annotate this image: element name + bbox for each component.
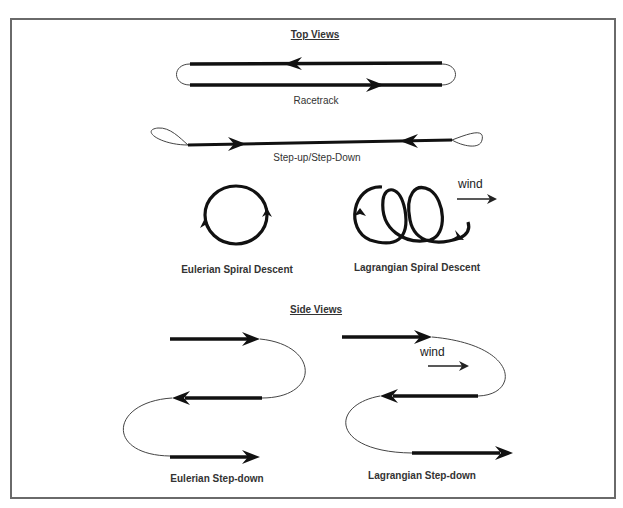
flight-pattern-diagram: [0, 0, 623, 508]
eulerian-stepdown-label: Eulerian Step-down: [170, 473, 263, 484]
side-views-heading: Side Views: [290, 304, 342, 315]
eulerian-stepdown-pattern: [123, 332, 305, 464]
lagrangian-stepdown-label: Lagrangian Step-down: [368, 470, 476, 481]
wind-label-side: wind: [420, 345, 445, 359]
wind-arrow-side: [428, 361, 469, 371]
arrow-up-icon: [200, 218, 210, 228]
wind-arrow-top: [457, 194, 497, 204]
racetrack-pattern: [177, 57, 456, 92]
step-up-step-down-pattern: [151, 128, 482, 151]
lagrangian-spiral-label: Lagrangian Spiral Descent: [354, 262, 480, 273]
racetrack-label: Racetrack: [293, 95, 338, 106]
step-up-down-label: Step-up/Step-Down: [273, 152, 360, 163]
top-views-heading: Top Views: [291, 29, 340, 40]
eulerian-spiral-pattern: [200, 186, 272, 244]
lagrangian-spiral-pattern: [354, 187, 469, 243]
wind-label-top: wind: [458, 177, 483, 191]
eulerian-spiral-label: Eulerian Spiral Descent: [181, 264, 293, 275]
